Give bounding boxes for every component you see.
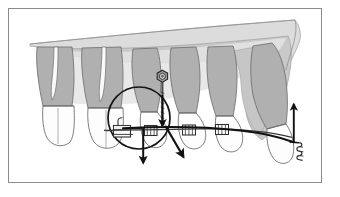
figure-root: Orthodontic biomechanics diagram: maxill… — [0, 0, 340, 197]
force-vector-origin-tick — [290, 142, 299, 143]
illustration-content — [9, 9, 322, 183]
orthodontic-diagram-svg — [0, 0, 340, 197]
mini-implant-head-center — [161, 75, 163, 77]
